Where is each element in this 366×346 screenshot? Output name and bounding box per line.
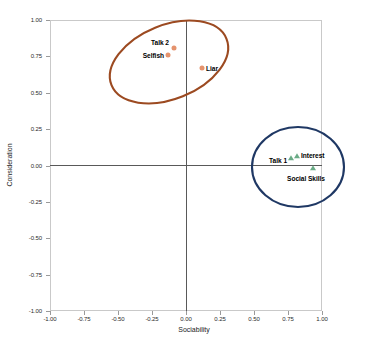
y-tick-label: 1.00	[31, 17, 42, 23]
x-tick-mark	[118, 311, 119, 315]
y-tick-mark	[46, 311, 50, 312]
y-tick-label: 0.75	[31, 53, 42, 59]
y-tick-mark	[46, 129, 50, 130]
y-tick-mark	[46, 275, 50, 276]
data-point-social-skills	[310, 166, 316, 171]
x-tick-mark	[50, 311, 51, 315]
y-tick-label: 0.25	[31, 126, 42, 132]
label-talk1: Talk 1	[269, 157, 287, 164]
y-tick-label: 0.00	[31, 163, 42, 169]
x-axis-title-text: Sociability	[178, 326, 210, 333]
data-point-selfish	[166, 52, 171, 57]
y-tick-mark	[46, 20, 50, 21]
label-social-skills: Social Skills	[287, 175, 325, 182]
x-tick-mark	[254, 311, 255, 315]
x-tick-label: 0.00	[180, 316, 191, 322]
x-tick-label: 0.25	[214, 316, 225, 322]
x-tick-mark	[84, 311, 85, 315]
x-tick-mark	[288, 311, 289, 315]
data-point-talk2	[171, 46, 176, 51]
y-tick-mark	[46, 166, 50, 167]
x-tick-label: -0.50	[111, 316, 124, 322]
x-axis-title: Sociability	[0, 326, 366, 333]
y-tick-mark	[46, 238, 50, 239]
x-tick-label: 0.50	[248, 316, 259, 322]
label-talk2: Talk 2	[151, 39, 169, 46]
x-tick-label: -0.75	[77, 316, 90, 322]
data-point-liar	[199, 66, 204, 71]
scatter-chart: -1.00 -0.75 -0.50 -0.25 0.00 0.25 0.50 0…	[0, 0, 366, 346]
label-liar: Liar	[206, 65, 218, 72]
x-tick-label: 0.75	[282, 316, 293, 322]
x-tick-label: -0.25	[145, 316, 158, 322]
y-tick-label: -0.50	[29, 235, 42, 241]
label-interest: Interest	[301, 152, 324, 159]
y-tick-mark	[46, 56, 50, 57]
x-tick-mark	[152, 311, 153, 315]
y-tick-label: -1.00	[29, 308, 42, 314]
label-selfish: Selfish	[143, 52, 164, 59]
zero-line-vertical	[186, 20, 187, 311]
y-tick-mark	[46, 93, 50, 94]
x-tick-label: 1.00	[316, 316, 327, 322]
y-axis-title: Consideration	[6, 143, 13, 186]
x-tick-label: -1.00	[43, 316, 56, 322]
x-tick-mark	[220, 311, 221, 315]
x-tick-mark	[186, 311, 187, 315]
y-tick-mark	[46, 202, 50, 203]
x-tick-mark	[322, 311, 323, 315]
y-tick-label: -0.25	[29, 199, 42, 205]
y-tick-label: -0.75	[29, 272, 42, 278]
y-tick-label: 0.50	[31, 90, 42, 96]
data-point-interest	[294, 153, 300, 158]
